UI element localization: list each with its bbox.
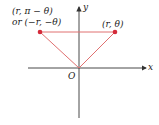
left-point	[38, 30, 43, 35]
right-point-label: (r, θ)	[102, 19, 123, 29]
origin-label: O	[68, 71, 75, 81]
y-axis-label: y	[83, 2, 88, 12]
x-axis-label: x	[148, 62, 153, 72]
left-point-label-2: or (−r, −θ)	[12, 17, 61, 27]
triangle-lines	[40, 32, 115, 68]
right-point	[113, 30, 118, 35]
left-point-label-1: (r, π − θ)	[12, 6, 53, 16]
